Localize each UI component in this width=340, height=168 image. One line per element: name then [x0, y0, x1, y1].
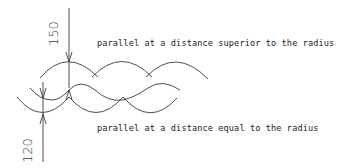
- superior-offset-arcs: [40, 62, 208, 80]
- dimension-150: [66, 8, 72, 100]
- label-superior: parallel at a distance superior to the r…: [97, 38, 334, 48]
- original-wave: [30, 83, 180, 100]
- dimension-120: [40, 82, 46, 162]
- dimension-label-150: 150: [46, 21, 61, 46]
- label-equal: parallel at a distance equal to the radi…: [97, 123, 319, 133]
- dimension-label-120: 120: [20, 138, 35, 163]
- equal-offset-arcs: [17, 97, 177, 113]
